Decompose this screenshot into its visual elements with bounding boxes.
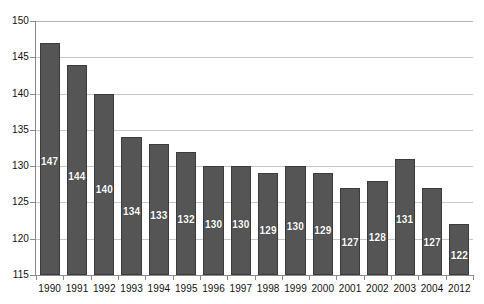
x-axis-tick-label: 2012	[446, 283, 473, 294]
x-axis-tick-mark	[145, 275, 146, 280]
x-axis-tick-label: 1991	[63, 283, 90, 294]
y-axis-tick-mark	[30, 166, 36, 167]
bar-value-label: 129	[313, 226, 333, 236]
bar	[367, 181, 387, 275]
x-axis-tick-label: 1999	[282, 283, 309, 294]
bar-value-label: 128	[367, 233, 387, 243]
bar-value-label: 134	[121, 207, 141, 217]
y-axis-tick-mark	[30, 202, 36, 203]
bar-value-label: 127	[340, 238, 360, 248]
x-axis-tick-mark	[227, 275, 228, 280]
x-axis-tick-mark	[255, 275, 256, 280]
y-axis-tick-label: 130	[1, 161, 29, 171]
x-axis-tick-mark	[200, 275, 201, 280]
x-axis-tick-mark	[36, 275, 37, 280]
x-axis-tick-label: 2000	[309, 283, 336, 294]
y-axis-tick-mark	[30, 57, 36, 58]
x-axis-tick-mark	[282, 275, 283, 280]
y-axis-tick-mark	[30, 130, 36, 131]
y-axis-tick-label: 135	[1, 125, 29, 135]
bar-value-label: 131	[395, 215, 415, 225]
x-axis-tick-label: 1998	[255, 283, 282, 294]
gridline	[36, 21, 473, 22]
x-axis-tick-label: 1992	[91, 283, 118, 294]
x-axis-tick-label: 1990	[36, 283, 63, 294]
x-axis-tick-mark	[173, 275, 174, 280]
bar-value-label: 147	[40, 157, 60, 167]
bar	[67, 65, 87, 275]
plot-area: 1471441401341331321301301291301291271281…	[36, 21, 473, 275]
x-axis-tick-mark	[364, 275, 365, 280]
y-axis-tick-label: 150	[1, 16, 29, 26]
bar-value-label: 130	[231, 220, 251, 230]
x-axis-tick-mark	[63, 275, 64, 280]
x-axis-tick-mark	[118, 275, 119, 280]
x-axis-tick-label: 2003	[391, 283, 418, 294]
gridline	[36, 57, 473, 58]
bar-value-label: 130	[285, 222, 305, 232]
x-axis-tick-label: 2004	[418, 283, 445, 294]
y-axis-tick-label: 140	[1, 89, 29, 99]
x-axis-tick-mark	[336, 275, 337, 280]
x-axis-tick-label: 2001	[336, 283, 363, 294]
bar	[340, 188, 360, 275]
bar-value-label: 130	[203, 220, 223, 230]
x-axis-tick-label: 1995	[173, 283, 200, 294]
bar-value-label: 133	[149, 211, 169, 221]
y-axis-tick-label: 145	[1, 52, 29, 62]
bar-value-label: 140	[94, 185, 114, 195]
x-axis-tick-mark	[446, 275, 447, 280]
x-axis-tick-mark	[391, 275, 392, 280]
x-axis-tick-mark	[473, 275, 474, 280]
bar-value-label: 127	[422, 238, 442, 248]
x-axis-tick-label: 1994	[145, 283, 172, 294]
y-axis-tick-label: 125	[1, 197, 29, 207]
y-axis-tick-mark	[30, 239, 36, 240]
x-axis-tick-label: 1997	[227, 283, 254, 294]
y-axis: 115120125130135140145150	[0, 0, 29, 304]
y-axis-tick-mark	[30, 94, 36, 95]
bar-value-label: 129	[258, 226, 278, 236]
x-axis-tick-label: 1993	[118, 283, 145, 294]
y-axis-tick-label: 115	[1, 270, 29, 280]
bar-value-label: 144	[67, 172, 87, 182]
x-axis-tick-mark	[91, 275, 92, 280]
x-axis-tick-label: 2002	[364, 283, 391, 294]
x-axis-tick-mark	[309, 275, 310, 280]
x-axis-tick-label: 1996	[200, 283, 227, 294]
bar	[422, 188, 442, 275]
bar-chart: 115120125130135140145150 147144140134133…	[0, 0, 484, 304]
bar-value-label: 132	[176, 215, 196, 225]
x-axis-tick-mark	[418, 275, 419, 280]
bar-value-label: 122	[449, 251, 469, 261]
y-axis-tick-mark	[30, 21, 36, 22]
y-axis-tick-label: 120	[1, 234, 29, 244]
